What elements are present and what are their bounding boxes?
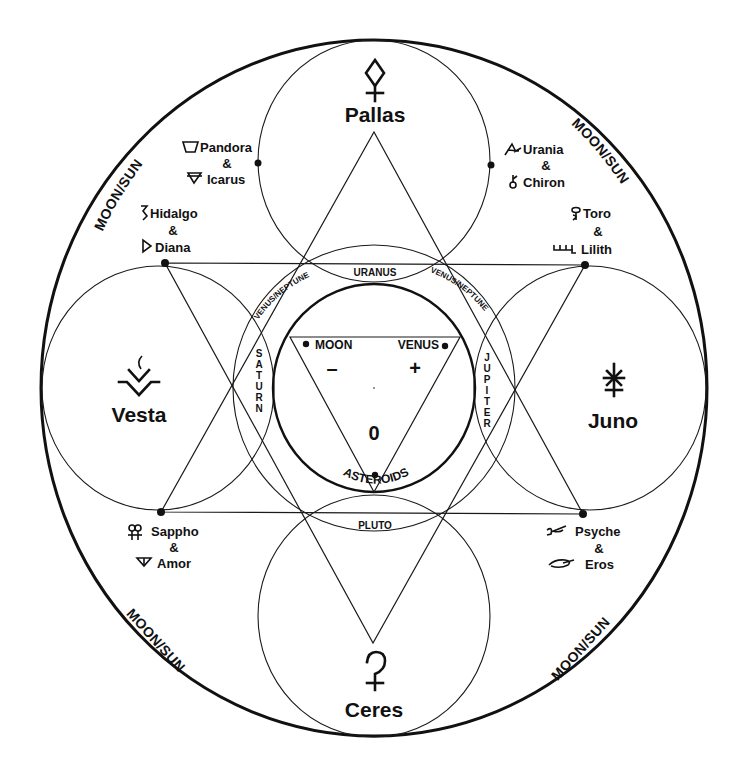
asteroid-mandala-diagram: MOON/SUN MOON/SUN MOON/SUN MOON/SUN Pall… [0,0,734,775]
diana-label: Diana [155,240,191,255]
pandora-label: Pandora [200,140,253,155]
node-dot-hidalgo-diana [161,259,169,267]
toro-label: Toro [583,206,611,221]
jupiter-label: J U P I T E R [483,352,491,429]
hidalgo-diana-joiner: & [168,223,177,238]
jupiter-letter: E [484,407,491,418]
eros-icon [549,560,574,567]
node-dot-venus [442,343,448,349]
chiron-icon [510,175,517,188]
ring-label-top-right: MOON/SUN [569,115,633,187]
sappho-icon [128,525,142,540]
saturn-letter: T [256,370,262,381]
saturn-letter: A [255,359,262,370]
center-point [373,387,375,389]
vesta-label: Vesta [112,403,167,426]
sappho-label: Sappho [151,524,199,539]
ring-label-bottom-right: MOON/SUN [548,614,613,684]
node-dot-urania-chiron [488,162,495,169]
node-dot-psyche-eros [579,510,587,518]
minus-sign: – [326,357,337,379]
node-dot-pandora-icarus [255,160,262,167]
toro-icon [572,208,580,221]
icarus-label: Icarus [207,172,245,187]
asteroids-label: ASTEROIDS [341,465,411,487]
hidalgo-label: Hidalgo [150,206,198,221]
saturn-letter: U [255,381,262,392]
venus-neptune-right-label: VENUS/NEPTUNE [429,265,490,313]
psyche-label: Psyche [575,524,621,539]
plus-sign: + [409,357,421,379]
juno-icon [604,364,624,396]
venus-label: VENUS [398,338,439,352]
urania-icon [505,144,521,155]
jupiter-letter: I [486,385,489,396]
amor-icon [137,558,151,566]
pallas-circle [258,40,490,282]
urania-label: Urania [523,142,564,157]
saturn-letter: R [255,392,263,403]
chiron-label: Chiron [523,175,565,190]
ceres-label: Ceres [345,698,403,721]
eros-label: Eros [585,557,614,572]
pallas-icon [366,60,384,101]
zero-value: 0 [368,422,379,444]
ceres-icon [367,652,385,690]
jupiter-letter: U [483,363,490,374]
toro-lilith-joiner: & [593,224,602,239]
jupiter-letter: R [483,418,491,429]
hexagram-down-triangle [165,263,585,643]
node-dot-toro-lilith [581,261,589,269]
pallas-label: Pallas [345,103,406,126]
saturn-letter: N [255,403,262,414]
hexagram-up-triangle [161,132,583,514]
psyche-icon [547,526,566,535]
node-dot-sappho-amor [157,508,165,516]
psyche-eros-joiner: & [594,541,603,556]
lilith-icon [554,245,576,253]
saturn-letter: S [256,348,263,359]
icarus-icon [187,173,202,183]
pandora-icon [183,142,198,152]
juno-circle [474,266,706,510]
juno-label: Juno [588,409,638,432]
uranus-label: URANUS [354,267,397,278]
inner-triangle [290,337,460,492]
amor-label: Amor [157,556,191,571]
jupiter-letter: J [484,352,490,363]
ring-label-bottom-left: MOON/SUN [124,605,189,675]
moon-label: MOON [315,338,352,352]
hidalgo-icon [141,206,147,220]
urania-chiron-joiner: & [541,158,550,173]
jupiter-letter: T [484,396,490,407]
saturn-label: S A T U R N [255,348,263,414]
vesta-icon [119,356,159,395]
lilith-label: Lilith [581,242,612,257]
pandora-icarus-joiner: & [222,156,231,171]
vesta-circle [42,266,274,510]
ring-label-top-left: MOON/SUN [91,156,146,233]
pluto-label: PLUTO [358,520,392,531]
node-dot-moon [303,341,309,347]
diana-icon [143,240,151,252]
jupiter-letter: P [484,374,491,385]
sappho-amor-joiner: & [169,540,178,555]
